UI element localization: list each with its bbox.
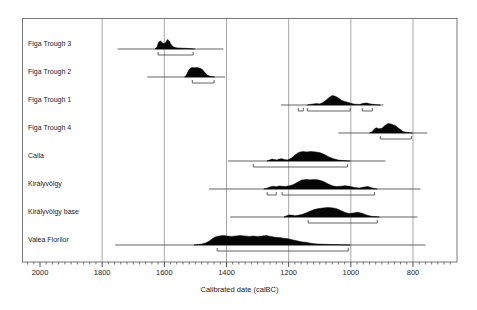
range-bracket xyxy=(307,108,350,111)
range-bracket xyxy=(217,248,348,251)
range-bracket xyxy=(192,80,214,83)
row-label-5: Caila xyxy=(28,152,44,159)
x-tick-label: 1200 xyxy=(280,268,297,277)
x-tick-label: 2000 xyxy=(32,268,49,277)
probability-distribution xyxy=(307,96,380,106)
range-bracket xyxy=(298,108,303,111)
probability-distribution xyxy=(370,124,413,134)
row-label-3: Figa Trough 1 xyxy=(28,96,71,104)
x-tick-label: 1800 xyxy=(94,268,111,277)
probability-distribution xyxy=(267,152,350,162)
x-tick-label: 1400 xyxy=(218,268,235,277)
probability-distribution xyxy=(284,208,379,218)
probability-distribution xyxy=(155,40,195,50)
probability-distribution xyxy=(194,236,350,246)
probability-distribution xyxy=(185,68,215,78)
calibration-chart: Figa Trough 3Figa Trough 2Figa Trough 1F… xyxy=(0,0,477,310)
range-bracket xyxy=(253,164,347,167)
x-axis-title: Calibrated date (calBC) xyxy=(201,285,279,294)
x-tick-label: 1000 xyxy=(342,268,359,277)
range-bracket xyxy=(362,108,372,111)
range-bracket xyxy=(282,192,374,195)
range-bracket xyxy=(308,220,377,223)
row-label-8: Valea Florilor xyxy=(28,236,69,243)
range-bracket xyxy=(158,52,193,55)
row-label-1: Figa Trough 3 xyxy=(28,40,71,48)
row-label-2: Figa Trough 2 xyxy=(28,68,71,76)
x-tick-label: 1600 xyxy=(156,268,173,277)
x-tick-label: 800 xyxy=(407,268,420,277)
row-label-4: Figa Trough 4 xyxy=(28,124,71,132)
plot-frame xyxy=(23,19,458,263)
row-label-7: Királyvölgy base xyxy=(28,208,79,216)
radiocarbon-calibration-figure: Figa Trough 3Figa Trough 2Figa Trough 1F… xyxy=(0,0,477,310)
range-bracket xyxy=(267,192,276,195)
probability-distribution xyxy=(264,180,378,190)
row-label-6: Királyvölgy xyxy=(28,180,62,188)
range-bracket xyxy=(380,136,411,139)
